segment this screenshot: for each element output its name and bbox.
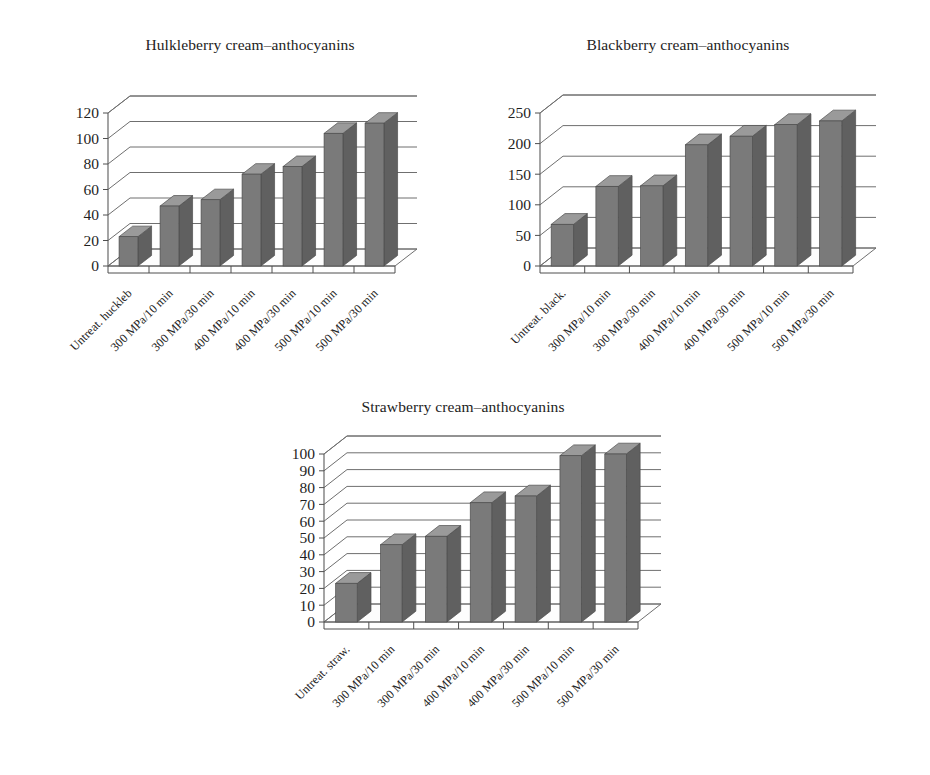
bar-front-face	[381, 545, 403, 622]
bar-side-face	[842, 110, 856, 266]
plot-area-huckleberry: 020406080100120Untreat. huckleb300 MPa/1…	[40, 58, 460, 368]
bar-front-face	[324, 133, 343, 266]
bar-300-mpa-30-min	[641, 175, 677, 266]
bar-side-face	[343, 123, 357, 266]
bar-front-face	[641, 186, 663, 266]
bar-400-mpa-30-min	[515, 485, 550, 622]
bar-400-mpa-30-min	[730, 125, 766, 266]
y-tick-label-80: 80	[300, 479, 316, 496]
bar-untreat-straw-	[336, 573, 371, 622]
bar-500-mpa-30-min	[605, 443, 640, 622]
bar-300-mpa-30-min	[425, 526, 460, 622]
bar-front-face	[119, 237, 138, 266]
bar-400-mpa-30-min	[283, 156, 316, 266]
plot-area-blackberry: 050100150200250Untreat. black.300 MPa/10…	[468, 58, 908, 368]
bar-side-face	[581, 445, 595, 622]
y-tick-label-100: 100	[508, 196, 532, 213]
bar-front-face	[685, 145, 707, 266]
y-tick-label-100: 100	[292, 445, 316, 462]
gridline-top	[108, 96, 417, 113]
y-tick-label-90: 90	[300, 462, 316, 479]
bar-300-mpa-10-min	[596, 176, 632, 266]
bar-400-mpa-10-min	[242, 164, 275, 266]
bar-side-face	[626, 443, 640, 622]
y-tick-label-50: 50	[300, 529, 316, 546]
gridline-top	[540, 95, 876, 113]
bar-side-face	[384, 113, 398, 266]
bar-side-face	[708, 134, 722, 266]
bar-side-face	[618, 176, 632, 266]
bar-side-face	[402, 534, 416, 622]
bar-500-mpa-30-min	[819, 110, 855, 266]
y-tick-label-60: 60	[300, 513, 316, 530]
chart-title-strawberry: Strawberry cream–anthocyanins	[248, 398, 678, 416]
y-tick-label-10: 10	[300, 597, 316, 614]
y-tick-label-40: 40	[300, 546, 316, 563]
bar-500-mpa-10-min	[560, 445, 595, 622]
bar-chart-svg-huckleberry: 020406080100120Untreat. huckleb300 MPa/1…	[40, 58, 460, 368]
bar-front-face	[242, 174, 261, 266]
y-tick-label-80: 80	[84, 155, 100, 172]
bar-side-face	[220, 189, 234, 266]
y-tick-label-40: 40	[84, 206, 100, 223]
bar-front-face	[283, 167, 302, 266]
bar-300-mpa-30-min	[201, 189, 234, 266]
y-tick-label-100: 100	[76, 130, 100, 147]
gridline-120	[108, 96, 417, 113]
bar-side-face	[752, 125, 766, 266]
bar-chart-svg-strawberry: 0102030405060708090100Untreat. straw.300…	[248, 422, 678, 762]
y-tick-label-20: 20	[84, 232, 100, 249]
bar-500-mpa-10-min	[324, 123, 357, 266]
y-tick-label-30: 30	[300, 563, 316, 580]
plot-area-strawberry: 0102030405060708090100Untreat. straw.300…	[248, 422, 678, 762]
bar-500-mpa-30-min	[365, 113, 398, 266]
y-tick-label-250: 250	[508, 104, 532, 121]
bar-front-face	[470, 503, 492, 622]
bar-front-face	[201, 200, 220, 266]
bar-front-face	[819, 121, 841, 266]
chart-panel-blackberry: Blackberry cream–anthocyanins 0501001502…	[468, 36, 908, 376]
gridline-250	[540, 95, 876, 113]
y-tick-label-20: 20	[300, 580, 316, 597]
bar-front-face	[365, 123, 384, 266]
bar-side-face	[797, 114, 811, 266]
bar-side-face	[447, 526, 461, 622]
bar-side-face	[302, 156, 316, 266]
y-tick-label-70: 70	[300, 496, 316, 513]
bar-side-face	[663, 175, 677, 266]
chart-panel-huckleberry: Hulkleberry cream–anthocyanins 020406080…	[40, 36, 460, 376]
chart-title-huckleberry: Hulkleberry cream–anthocyanins	[40, 36, 460, 54]
bar-front-face	[160, 206, 179, 266]
bar-side-face	[261, 164, 275, 266]
y-tick-label-120: 120	[76, 104, 100, 121]
bar-500-mpa-10-min	[775, 114, 811, 266]
y-tick-label-0: 0	[307, 613, 315, 630]
bar-chart-svg-blackberry: 050100150200250Untreat. black.300 MPa/10…	[468, 58, 908, 368]
y-tick-label-200: 200	[508, 135, 532, 152]
bar-front-face	[336, 583, 358, 622]
bar-300-mpa-10-min	[160, 196, 193, 266]
bar-front-face	[551, 224, 573, 266]
bar-side-face	[492, 492, 506, 622]
bar-side-face	[179, 196, 193, 266]
bar-untreat-black-	[551, 214, 587, 266]
y-tick-label-150: 150	[508, 166, 532, 183]
bar-front-face	[775, 125, 797, 266]
chart-title-blackberry: Blackberry cream–anthocyanins	[468, 36, 908, 54]
bar-front-face	[596, 186, 618, 266]
bar-400-mpa-10-min	[685, 134, 721, 266]
bar-side-face	[537, 485, 551, 622]
bar-front-face	[605, 454, 627, 622]
bar-front-face	[560, 456, 582, 622]
bar-400-mpa-10-min	[470, 492, 505, 622]
y-tick-label-50: 50	[516, 227, 532, 244]
bar-front-face	[730, 136, 752, 266]
chart-panel-strawberry: Strawberry cream–anthocyanins 0102030405…	[248, 398, 678, 768]
bar-300-mpa-10-min	[381, 534, 416, 622]
bar-front-face	[515, 496, 537, 622]
y-tick-label-0: 0	[523, 257, 531, 274]
y-tick-label-0: 0	[91, 257, 99, 274]
bar-front-face	[425, 536, 447, 622]
y-tick-label-60: 60	[84, 181, 100, 198]
